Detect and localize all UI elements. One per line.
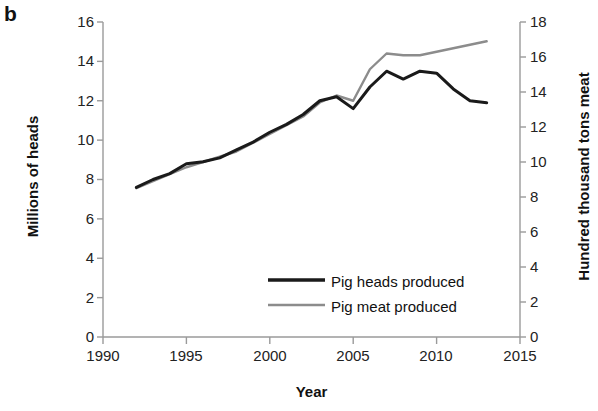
series-line-pig-heads-produced [136,71,486,187]
series-line-pig-meat-produced [136,41,486,188]
x-axis-ticks [103,337,520,344]
axis-lines [103,22,520,337]
y-axis-right-ticks [520,22,526,337]
y-axis-left-ticks [97,22,103,337]
figure-panel-b: b Millions of heads Hundred thousand ton… [0,0,598,411]
plot-area [0,0,598,411]
